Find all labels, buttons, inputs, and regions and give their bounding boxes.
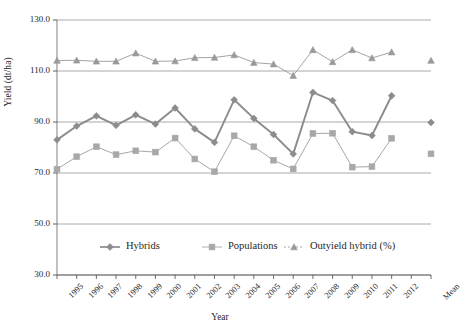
data-point-diamond [132,111,139,118]
data-point-square [192,156,198,162]
data-point-square [172,135,178,141]
data-point-square [310,131,316,137]
data-point-square [290,166,296,172]
data-point-square [231,133,237,139]
data-point-triangle [310,47,317,53]
data-point-diamond [369,132,376,139]
data-point-square [74,154,80,160]
data-point-square [153,149,159,155]
data-point-square [349,164,355,170]
axis-lines [57,20,431,275]
data-point-diamond [388,92,395,99]
x-tick-label: Mean [441,281,461,302]
data-point-square [113,152,119,158]
data-point-diamond [309,89,316,96]
series-line [57,50,392,76]
data-point-triangle [428,57,435,63]
data-point-square [428,151,434,157]
data-point-square [212,169,218,175]
x-axis-ticks [57,275,431,279]
data-point-square [251,144,257,150]
data-point-square [330,130,336,136]
data-series-layer [54,47,435,175]
legend-markers [100,244,304,251]
data-point-square [389,135,395,141]
data-point-diamond [428,119,435,126]
data-point-diamond [113,122,120,129]
data-point-square [271,157,277,163]
data-point-triangle [388,49,395,55]
data-point-square [209,244,215,250]
data-point-triangle [349,47,356,53]
data-point-square [54,166,60,172]
data-point-diamond [93,112,100,119]
data-point-square [93,144,99,150]
data-point-triangle [329,59,336,65]
data-point-triangle [231,52,238,58]
data-point-square [369,164,375,170]
data-point-diamond [107,244,114,251]
series-triangle [54,47,435,79]
gridlines [57,20,431,275]
series-square [54,130,434,174]
series-line [57,133,392,172]
data-point-square [133,148,139,154]
data-point-triangle [132,50,139,56]
series-line [57,92,392,153]
series-diamond [54,89,435,157]
